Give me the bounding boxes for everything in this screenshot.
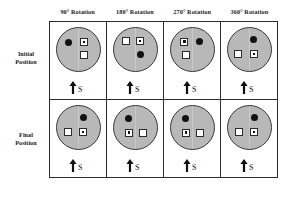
marker-label-s: S	[135, 85, 139, 94]
row-label-final-line2: Position	[4, 139, 48, 147]
filled-dot-marker	[137, 51, 144, 58]
up-arrow-icon	[240, 158, 248, 171]
disc-seam-line	[78, 29, 79, 70]
column-header-90: 90° Rotation	[49, 5, 106, 19]
marker-label-s: S	[78, 163, 82, 172]
plain-square-marker	[196, 129, 204, 137]
rotation-task-figure: 90° Rotation 180° Rotation 270° Rotation…	[0, 0, 289, 202]
up-arrow-icon	[183, 80, 191, 93]
square-with-dot-marker	[79, 128, 87, 136]
stimulus-grid: S S S S S S S S	[49, 21, 278, 178]
filled-dot-marker	[125, 115, 132, 122]
marker-label-s: S	[192, 85, 196, 94]
square-with-dot-marker	[250, 128, 258, 136]
row-label-initial-line2: Position	[4, 58, 48, 66]
stimulus-disc	[56, 105, 101, 150]
row-label-initial-position: Initial Position	[4, 50, 48, 66]
grid-row-initial-position: S S S S	[50, 22, 277, 100]
cell-initial-360: S	[221, 22, 277, 99]
disc-seam-line	[192, 29, 193, 70]
disc-seam-line	[135, 107, 136, 148]
plain-square-marker	[234, 50, 242, 58]
cell-initial-90: S	[50, 22, 107, 99]
square-with-dot-marker	[80, 38, 88, 46]
stimulus-disc	[170, 27, 215, 72]
plain-square-marker	[80, 51, 88, 59]
stimulus-disc	[170, 105, 215, 150]
square-with-dot-marker	[125, 129, 133, 137]
cell-initial-270: S	[164, 22, 221, 99]
orientation-marker: S	[181, 79, 203, 93]
marker-label-s: S	[192, 163, 196, 172]
up-arrow-icon	[183, 158, 191, 171]
row-label-initial-line1: Initial	[4, 50, 48, 58]
filled-dot-marker	[250, 36, 257, 43]
filled-dot-marker	[251, 114, 258, 121]
square-with-dot-marker	[182, 129, 190, 137]
filled-dot-marker	[182, 115, 189, 122]
stimulus-disc	[227, 105, 272, 150]
up-arrow-icon	[126, 80, 134, 93]
row-label-final-line1: Final	[4, 131, 48, 139]
row-label-final-position: Final Position	[4, 131, 48, 147]
up-arrow-icon	[69, 80, 77, 93]
cell-final-90: S	[50, 100, 107, 177]
square-with-dot-marker	[180, 38, 188, 46]
grid-row-final-position: S S S S	[50, 100, 277, 177]
disc-seam-line	[135, 29, 136, 70]
square-with-dot-marker	[136, 37, 144, 45]
column-header-row: 90° Rotation 180° Rotation 270° Rotation…	[49, 5, 278, 19]
orientation-marker: S	[238, 79, 260, 93]
up-arrow-icon	[69, 158, 77, 171]
up-arrow-icon	[240, 80, 248, 93]
stimulus-disc	[113, 105, 158, 150]
column-header-180: 180° Rotation	[106, 5, 163, 19]
cell-initial-180: S	[107, 22, 164, 99]
stimulus-disc	[227, 27, 272, 72]
filled-dot-marker	[80, 114, 87, 121]
square-with-dot-marker	[250, 50, 258, 58]
orientation-marker: S	[124, 79, 146, 93]
marker-label-s: S	[249, 85, 253, 94]
column-header-270: 270° Rotation	[164, 5, 221, 19]
filled-dot-marker	[65, 39, 72, 46]
cell-final-180: S	[107, 100, 164, 177]
orientation-marker: S	[238, 157, 260, 171]
plain-square-marker	[122, 37, 130, 45]
filled-dot-marker	[196, 38, 203, 45]
orientation-marker: S	[67, 157, 89, 171]
plain-square-marker	[182, 51, 190, 59]
column-header-360: 360° Rotation	[221, 5, 278, 19]
marker-label-s: S	[135, 163, 139, 172]
orientation-marker: S	[124, 157, 146, 171]
stimulus-disc	[56, 27, 101, 72]
up-arrow-icon	[126, 158, 134, 171]
marker-label-s: S	[249, 163, 253, 172]
orientation-marker: S	[181, 157, 203, 171]
stimulus-disc	[113, 27, 158, 72]
cell-final-270: S	[164, 100, 221, 177]
plain-square-marker	[139, 129, 147, 137]
plain-square-marker	[64, 128, 72, 136]
orientation-marker: S	[67, 79, 89, 93]
plain-square-marker	[235, 128, 243, 136]
disc-seam-line	[192, 107, 193, 148]
cell-final-360: S	[221, 100, 277, 177]
marker-label-s: S	[78, 85, 82, 94]
